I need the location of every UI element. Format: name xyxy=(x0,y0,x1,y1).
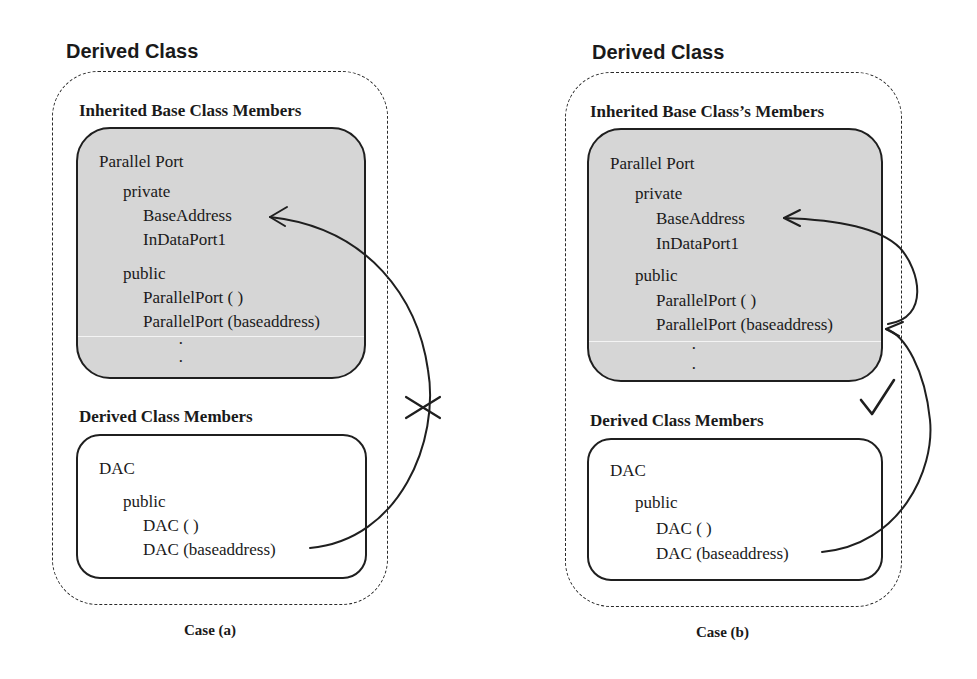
case-b-inherited-heading: Inherited Base Class’s Members xyxy=(590,102,824,122)
case-b-private-label: private xyxy=(635,184,682,204)
case-a-inherited-heading: Inherited Base Class Members xyxy=(79,101,301,121)
case-a-member-parallelport-baseaddress: ParallelPort (baseaddress) xyxy=(143,312,320,332)
case-b-member-dac-default: DAC ( ) xyxy=(656,519,712,539)
case-b-member-parallelport-baseaddress: ParallelPort (baseaddress) xyxy=(656,315,833,335)
case-a-title: Derived Class xyxy=(66,40,198,63)
case-a-ellipsis-dot: · xyxy=(178,334,184,354)
case-a-public-label: public xyxy=(123,264,166,284)
case-a-private-label: private xyxy=(123,182,170,202)
case-b-member-baseaddress: BaseAddress xyxy=(656,209,745,229)
case-a-member-baseaddress: BaseAddress xyxy=(143,206,232,226)
scan-seam xyxy=(589,341,881,342)
case-b-derived-class-name: DAC xyxy=(610,461,646,481)
case-b-title: Derived Class xyxy=(592,41,724,64)
case-a-member-dac-default: DAC ( ) xyxy=(143,516,199,536)
case-a-member-indataport1: InDataPort1 xyxy=(143,230,226,250)
case-b-derived-public-label: public xyxy=(635,493,678,513)
scan-seam xyxy=(78,336,364,337)
case-b-ellipsis-dot: · xyxy=(691,339,697,359)
case-a-base-class-name: Parallel Port xyxy=(99,152,184,172)
case-b-base-class-name: Parallel Port xyxy=(610,154,695,174)
case-b-public-label: public xyxy=(635,266,678,286)
case-a-derived-class-name: DAC xyxy=(99,459,135,479)
case-a-ellipsis-dot: · xyxy=(178,352,184,372)
case-a-derived-public-label: public xyxy=(123,492,166,512)
case-b-member-indataport1: InDataPort1 xyxy=(656,234,739,254)
cross-mark-icon xyxy=(406,397,440,418)
case-a-member-dac-baseaddress: DAC (baseaddress) xyxy=(143,540,276,560)
case-a-derived-heading: Derived Class Members xyxy=(79,407,253,427)
case-b-ellipsis-dot: · xyxy=(691,359,697,379)
case-b-member-dac-baseaddress: DAC (baseaddress) xyxy=(656,544,789,564)
case-a-member-parallelport-default: ParallelPort ( ) xyxy=(143,288,243,308)
case-a-caption: Case (a) xyxy=(184,622,236,639)
case-b-derived-heading: Derived Class Members xyxy=(590,411,764,431)
case-b-caption: Case (b) xyxy=(696,624,749,641)
case-b-member-parallelport-default: ParallelPort ( ) xyxy=(656,291,756,311)
